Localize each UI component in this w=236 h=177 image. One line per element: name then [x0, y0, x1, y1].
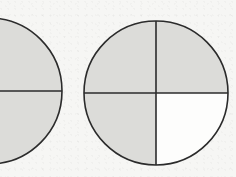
left-circle [0, 14, 70, 171]
right-circle [84, 21, 228, 166]
figure-svg [0, 0, 236, 177]
left-bottom-half-sector [0, 91, 70, 171]
right-top-left-quadrant-sector [84, 21, 156, 93]
right-top-right-quadrant-sector [156, 21, 228, 93]
left-top-half-sector [0, 14, 70, 91]
fraction-circle-figure [0, 0, 236, 177]
